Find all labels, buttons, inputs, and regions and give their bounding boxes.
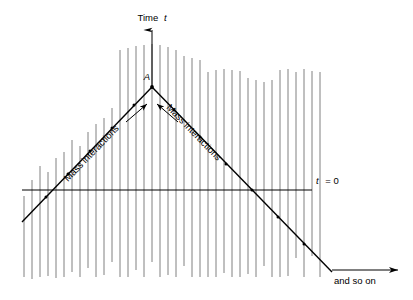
time-axis-label-symbol: t bbox=[164, 12, 167, 23]
worldline-dot bbox=[150, 85, 154, 89]
time-axis-label: Time t bbox=[137, 12, 166, 23]
worldline-dot bbox=[303, 243, 306, 246]
and-so-on-label: and so on bbox=[334, 275, 376, 286]
worldline-dot bbox=[45, 196, 48, 199]
apex-label: A bbox=[143, 71, 150, 82]
hatch-line-group bbox=[24, 44, 320, 279]
time-axis-label-text: Time bbox=[137, 12, 158, 23]
spacetime-worldline-figure: Time t A t = 0 Mass interactions Mass in… bbox=[0, 0, 413, 300]
worldline-dot bbox=[225, 163, 228, 166]
t-equals-zero-label: t = 0 bbox=[316, 175, 339, 186]
t-equals-zero-symbol: t bbox=[316, 175, 319, 186]
right-branch-label: Mass interactions bbox=[165, 102, 224, 163]
t-equals-zero-rest: = 0 bbox=[325, 175, 338, 186]
worldline-dot bbox=[133, 104, 136, 107]
worldline-dot bbox=[277, 216, 280, 219]
worldline-dot bbox=[251, 189, 254, 192]
